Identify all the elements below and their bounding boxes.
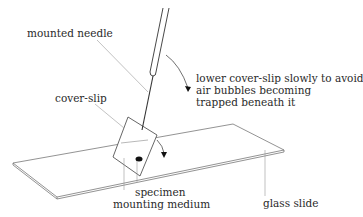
label-glass-slide: glass slide xyxy=(263,197,319,209)
label-mounting-medium: mounting medium xyxy=(113,198,210,210)
lowering-arrow xyxy=(166,55,191,92)
mounted-needle-shape xyxy=(142,8,169,130)
label-cover-slip: cover-slip xyxy=(55,92,107,104)
label-mounted-needle: mounted needle xyxy=(27,27,113,39)
label-instruction: lower cover-slip slowly to avoid air bub… xyxy=(196,72,363,108)
specimen-blob xyxy=(136,157,143,162)
label-specimen: specimen xyxy=(135,186,186,198)
